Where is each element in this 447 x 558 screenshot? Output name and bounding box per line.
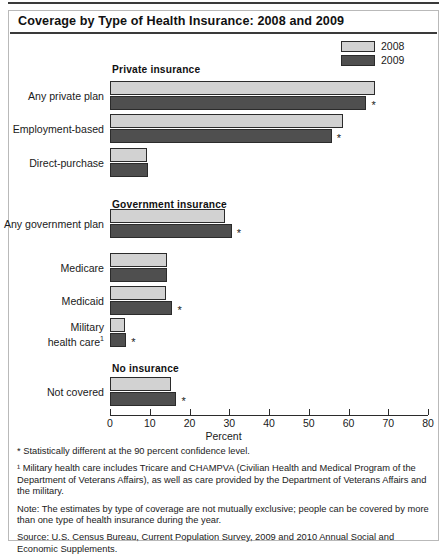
footnote-significance: * Statistically different at the 90 perc… bbox=[17, 446, 431, 457]
group-heading-no-insurance: No insurance bbox=[112, 363, 179, 374]
footnote-note: Note: The estimates by type of coverage … bbox=[17, 504, 431, 527]
x-tick-50 bbox=[309, 409, 310, 415]
bar-medicaid-2008 bbox=[110, 286, 166, 300]
x-tick-label-20: 20 bbox=[184, 417, 196, 429]
bar-employment-based-2008 bbox=[110, 114, 343, 128]
bar-medicare-2009 bbox=[110, 268, 167, 282]
x-tick-70 bbox=[388, 409, 389, 415]
bar-medicaid-2009 bbox=[110, 301, 172, 315]
x-tick-label-70: 70 bbox=[382, 417, 394, 429]
x-tick-10 bbox=[150, 409, 151, 415]
bar-employment-based-2009 bbox=[110, 129, 332, 143]
footnote-military: ¹ Military health care includes Tricare … bbox=[17, 463, 431, 497]
x-tick-60 bbox=[349, 409, 350, 415]
bar-direct-purchase-2009 bbox=[110, 163, 148, 177]
bar-not-covered-2008 bbox=[110, 377, 171, 391]
x-tick-label-0: 0 bbox=[107, 417, 113, 429]
bar-any-private-plan-2009 bbox=[110, 96, 366, 110]
bar-any-government-plan-2008 bbox=[110, 209, 225, 223]
x-tick-0 bbox=[110, 409, 111, 415]
footnotes: * Statistically different at the 90 perc… bbox=[17, 446, 431, 558]
x-tick-30 bbox=[229, 409, 230, 415]
category-label-not-covered: Not covered bbox=[0, 386, 104, 398]
significance-marker-employment-based: * bbox=[337, 133, 341, 144]
significance-marker-not-covered: * bbox=[181, 396, 185, 407]
significance-marker-medicaid: * bbox=[177, 305, 181, 316]
category-label-military-health-care: Military health care1 bbox=[0, 321, 104, 348]
bar-not-covered-2009 bbox=[110, 392, 176, 406]
x-axis-title: Percent bbox=[0, 430, 447, 442]
x-tick-label-30: 30 bbox=[223, 417, 235, 429]
bar-military-health-care-2008 bbox=[110, 318, 125, 332]
x-tick-label-80: 80 bbox=[422, 417, 434, 429]
significance-marker-any-private-plan: * bbox=[371, 100, 375, 111]
significance-marker-military-health-care: * bbox=[131, 337, 135, 348]
military-label-text: Military health care bbox=[48, 321, 104, 348]
group-heading-private-insurance: Private insurance bbox=[112, 64, 200, 75]
category-label-any-private-plan: Any private plan bbox=[0, 90, 104, 102]
x-tick-label-60: 60 bbox=[343, 417, 355, 429]
x-axis-line bbox=[110, 415, 428, 416]
category-label-any-government-plan: Any government plan bbox=[0, 218, 104, 230]
x-tick-40 bbox=[269, 409, 270, 415]
x-tick-label-40: 40 bbox=[263, 417, 275, 429]
significance-marker-any-government-plan: * bbox=[237, 228, 241, 239]
bar-any-government-plan-2009 bbox=[110, 224, 232, 238]
x-tick-label-10: 10 bbox=[144, 417, 156, 429]
category-label-medicaid: Medicaid bbox=[0, 295, 104, 307]
category-label-employment-based: Employment-based bbox=[0, 123, 104, 135]
footnote-source: Source: U.S. Census Bureau, Current Popu… bbox=[17, 532, 431, 555]
bar-medicare-2008 bbox=[110, 253, 167, 267]
bar-military-health-care-2009 bbox=[110, 333, 126, 347]
bar-any-private-plan-2008 bbox=[110, 81, 375, 95]
x-tick-20 bbox=[190, 409, 191, 415]
category-label-medicare: Medicare bbox=[0, 262, 104, 274]
x-tick-80 bbox=[428, 409, 429, 415]
category-label-direct-purchase: Direct-purchase bbox=[0, 157, 104, 169]
bar-direct-purchase-2008 bbox=[110, 148, 147, 162]
x-tick-label-50: 50 bbox=[303, 417, 315, 429]
